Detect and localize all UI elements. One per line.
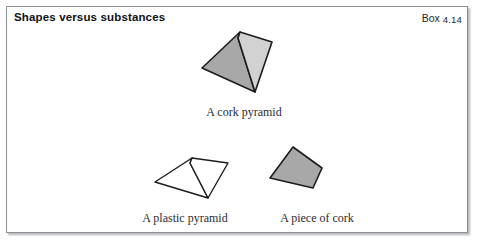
figure-page: Shapes versus substances Box 4.14 A cork… <box>0 0 478 244</box>
caption-piece-of-cork: A piece of cork <box>252 211 382 226</box>
figure-piece-of-cork <box>270 147 322 188</box>
figures-layer <box>0 0 478 244</box>
figure-plastic-pyramid <box>155 158 228 198</box>
figure-cork-pyramid <box>202 32 272 92</box>
piece-of-cork-body <box>270 147 322 188</box>
caption-plastic-pyramid: A plastic pyramid <box>115 211 255 226</box>
caption-cork-pyramid: A cork pyramid <box>0 105 478 120</box>
